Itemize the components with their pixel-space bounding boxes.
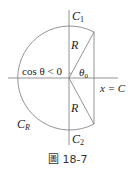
contour-diagram: C1 R θ0 cos θ < 0 x = C R CR C2 圖 18-7 (0, 0, 137, 175)
label-r-top: R (70, 38, 79, 52)
label-r-bottom: R (70, 101, 79, 115)
label-cos-condition: cos θ < 0 (22, 65, 62, 77)
label-cr: CR (17, 117, 30, 132)
label-c1: C1 (72, 9, 84, 24)
figure-caption: 圖 18-7 (48, 153, 87, 166)
label-x-equals-c: x = C (99, 82, 126, 94)
label-theta0: θ0 (79, 66, 88, 80)
label-c2: C2 (72, 132, 84, 147)
